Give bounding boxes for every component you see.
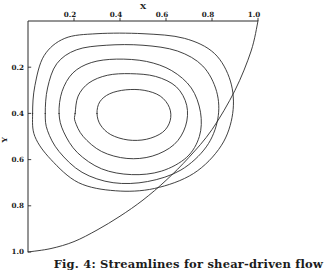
x-axis-tick-label: 0.8 — [202, 10, 215, 19]
y-axis-tick-label: 0.6 — [11, 155, 24, 164]
figure-caption-text: Fig. 4: Streamlines for shear-driven flo… — [54, 257, 323, 271]
figure-caption: Fig. 4: Streamlines for shear-driven flo… — [0, 251, 327, 276]
streamline-contour — [33, 33, 234, 191]
x-axis-tick-label: 1.0 — [248, 10, 261, 19]
x-axis-tick-label: 0.2 — [64, 10, 77, 19]
y-axis-label: Y — [0, 137, 9, 144]
streamline-contour — [45, 45, 219, 184]
streamline-contour — [59, 59, 201, 175]
streamline-plot: 0.20.40.60.81.0 0.20.40.60.81.0 X Y — [0, 0, 327, 276]
x-axis-label: X — [140, 1, 147, 11]
y-axis-tick-label: 0.8 — [11, 201, 24, 210]
figure-container: 0.20.40.60.81.0 0.20.40.60.81.0 X Y Fig.… — [0, 0, 327, 276]
domain-boundary-curve — [28, 21, 258, 252]
x-axis-tick-group: 0.20.40.60.81.0 — [64, 10, 261, 22]
x-axis-tick-label: 0.4 — [110, 10, 123, 19]
streamline-curve-group — [28, 21, 258, 252]
x-axis-tick-label: 0.6 — [156, 10, 169, 19]
streamline-contour — [97, 89, 171, 140]
y-axis-tick-label: 0.2 — [11, 63, 24, 72]
y-axis-tick-label: 0.4 — [11, 109, 24, 118]
